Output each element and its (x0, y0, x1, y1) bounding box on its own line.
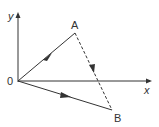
y-axis-label: y (8, 11, 14, 22)
arrowhead-icon (89, 64, 95, 73)
vector-ab (75, 33, 112, 110)
vector-ob (18, 81, 112, 110)
arrowhead-icon (43, 53, 52, 61)
x-axis (18, 79, 152, 84)
arrowhead-icon (60, 92, 71, 98)
origin-label: 0 (7, 76, 13, 87)
x-axis-label: x (144, 85, 150, 96)
y-axis (16, 12, 21, 82)
point-a-label: A (71, 20, 78, 31)
vector-diagram (0, 0, 159, 127)
vector-oa (18, 33, 75, 81)
point-b-label: B (114, 113, 121, 124)
